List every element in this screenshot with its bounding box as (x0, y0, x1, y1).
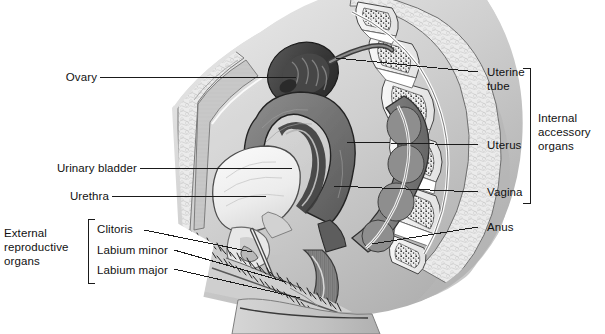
label-vagina: Vagina (487, 185, 523, 199)
group-label-internal-accessory-organs: Internal accessory organs (538, 111, 602, 153)
label-labium-major: Labium major (97, 263, 168, 277)
external-line-3: organs (4, 254, 82, 268)
internal-line-2: accessory (538, 125, 602, 139)
label-urinary-bladder: Urinary bladder (0, 161, 137, 175)
label-uterus: Uterus (487, 138, 521, 152)
urinary-bladder-organ (213, 146, 301, 238)
uterine-tube-line-2: tube (487, 79, 527, 93)
label-uterine-tube: Uterine tube (487, 65, 527, 93)
group-label-external-reproductive-organs: External reproductive organs (4, 226, 82, 268)
external-line-1: External (4, 226, 82, 240)
internal-line-3: organs (538, 139, 602, 153)
external-line-2: reproductive (4, 240, 82, 254)
internal-line-1: Internal (538, 111, 602, 125)
uterine-tube-line-1: Uterine (487, 65, 527, 79)
label-labium-minor: Labium minor (97, 243, 168, 257)
label-clitoris: Clitoris (97, 222, 133, 236)
label-urethra: Urethra (0, 189, 109, 203)
anatomy-figure: y p pp y y (0, 0, 605, 334)
label-ovary: Ovary (0, 70, 97, 84)
label-anus: Anus (487, 220, 514, 234)
